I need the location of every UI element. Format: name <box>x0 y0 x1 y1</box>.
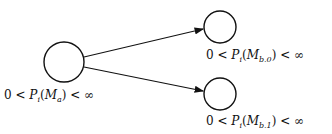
node-Ma <box>44 42 84 82</box>
edge-Ma-Mb1 <box>84 67 203 91</box>
label-Mb0: 0 < Pi(Mb.0) < ∞ <box>206 48 304 64</box>
node-Mb1 <box>204 78 236 110</box>
label-Mb1: 0 < Pi(Mb.1) < ∞ <box>206 114 304 130</box>
node-Mb0 <box>204 11 236 43</box>
edge-Ma-Mb0 <box>84 29 203 57</box>
label-Ma: 0 < Pi(Ma) < ∞ <box>4 88 94 104</box>
